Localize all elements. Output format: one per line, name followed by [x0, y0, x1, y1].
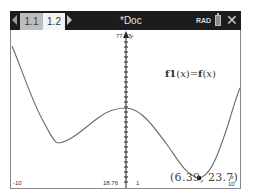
y-axis-name: y	[130, 33, 133, 39]
paren-close: )=	[186, 68, 198, 79]
ymin-label: 18.76	[103, 180, 118, 186]
function-name: f1	[165, 68, 176, 79]
xmin-label: -10	[13, 180, 22, 186]
x-tick-label: 1	[136, 180, 139, 186]
point-coordinates[interactable]: (6.39, 23.7)	[170, 171, 238, 184]
rhs-paren-close: )	[212, 68, 216, 79]
function-label[interactable]: f1(x)=f(x)	[165, 68, 216, 79]
ymax-label: 77.87	[116, 33, 131, 39]
function-plot[interactable]	[0, 0, 257, 195]
